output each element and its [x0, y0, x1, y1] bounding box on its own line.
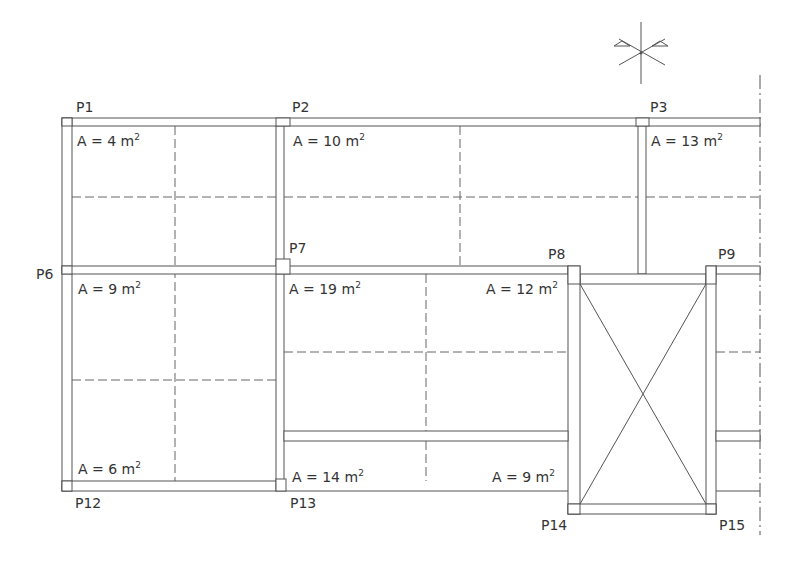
area-label: A = 4 m2 [77, 132, 140, 149]
label-p3: P3 [650, 99, 667, 115]
label-p12: P12 [75, 495, 101, 511]
label-p13: P13 [290, 495, 316, 511]
column-p6 [62, 266, 72, 274]
area-label: A = 12 m2 [486, 280, 558, 297]
label-p2: P2 [292, 99, 309, 115]
label-p14: P14 [541, 517, 567, 533]
column-p12 [62, 481, 72, 491]
area-label: A = 6 m2 [78, 460, 141, 477]
column-p14 [568, 504, 580, 514]
label-p15: P15 [719, 517, 745, 533]
column-p7 [276, 259, 290, 274]
area-label: A = 10 m2 [293, 132, 365, 149]
column-p1 [62, 118, 72, 126]
column-p9 [706, 266, 716, 284]
north-arrow-icon [614, 22, 668, 84]
beams [62, 118, 760, 514]
column-p3 [636, 118, 649, 126]
area-label: A = 9 m2 [78, 280, 141, 297]
area-label: A = 19 m2 [289, 280, 361, 297]
column-p8 [568, 266, 580, 284]
columns [62, 118, 716, 514]
column-p15 [706, 504, 716, 514]
label-p7: P7 [289, 240, 306, 256]
column-p13 [276, 479, 286, 491]
joist-lines [72, 126, 760, 481]
label-p1: P1 [76, 99, 93, 115]
stair-void-marker [580, 284, 706, 504]
floor-plan-drawing: P1 P2 P3 P6 P7 P8 P9 P12 P13 P14 P15 A =… [0, 0, 790, 561]
area-label: A = 14 m2 [292, 468, 364, 485]
column-p2 [276, 118, 290, 126]
area-label: A = 9 m2 [492, 468, 555, 485]
label-p6: P6 [36, 266, 53, 282]
area-label: A = 13 m2 [651, 132, 723, 149]
label-p8: P8 [548, 246, 565, 262]
label-p9: P9 [718, 246, 735, 262]
